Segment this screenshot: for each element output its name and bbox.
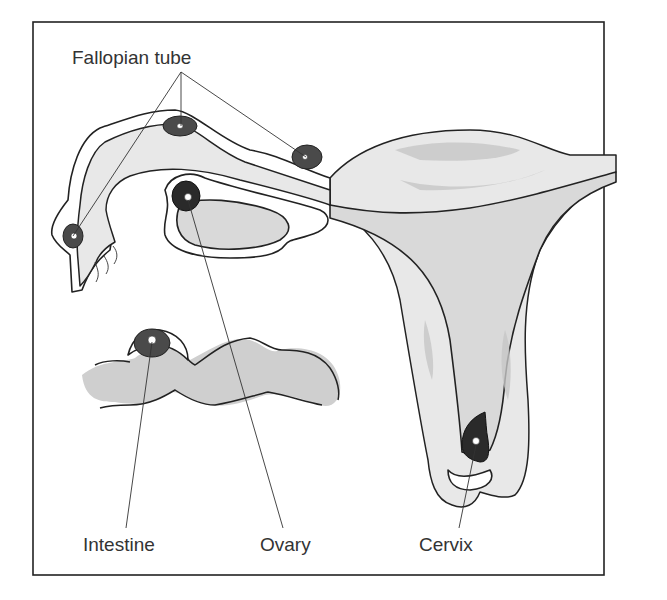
label-fallopian-tube: Fallopian tube [72, 47, 191, 68]
label-ovary: Ovary [260, 534, 311, 555]
label-cervix: Cervix [419, 534, 473, 555]
label-intestine: Intestine [83, 534, 155, 555]
intestine [82, 330, 340, 408]
anatomy-diagram: Fallopian tube Intestine Ovary Cervix [0, 0, 667, 600]
